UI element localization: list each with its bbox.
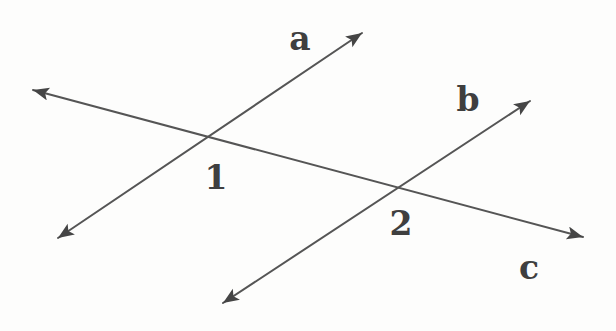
line-b xyxy=(223,101,530,303)
label-line-a: a xyxy=(289,19,310,58)
line-c xyxy=(33,90,583,237)
lines-group xyxy=(33,33,583,303)
label-intersection-2: 2 xyxy=(390,204,413,243)
label-line-b: b xyxy=(456,80,479,119)
diagram-canvas: a b c 1 2 xyxy=(0,0,616,331)
label-line-c: c xyxy=(519,248,539,287)
line-a xyxy=(58,33,362,238)
parallel-lines-transversal-diagram: a b c 1 2 xyxy=(0,0,616,331)
label-intersection-1: 1 xyxy=(205,158,228,197)
